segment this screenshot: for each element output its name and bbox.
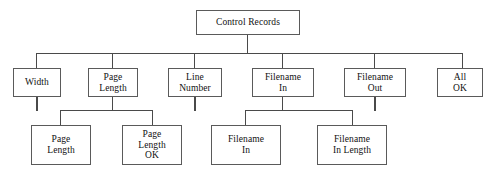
connector-drop-page-length-ok (152, 110, 153, 125)
node-label-line: OK (453, 83, 467, 94)
node-label-line: Line (186, 72, 204, 83)
node-label-line: Filename (265, 72, 301, 83)
node-label-line: Out (368, 83, 383, 94)
connector-drop-filename-out (374, 53, 375, 68)
connector-drop-page-length-child (60, 110, 61, 125)
node-control-records[interactable]: Control Records (196, 10, 300, 35)
node-label-line: Width (25, 77, 49, 88)
node-filename-in-length[interactable]: Filename In Length (317, 125, 387, 165)
node-width[interactable]: Width (13, 68, 61, 97)
connector-stub-width (36, 97, 38, 111)
node-label-line: Control Records (216, 17, 280, 28)
connector-drop-filename-in-child (245, 110, 246, 125)
node-label-line: Page (104, 72, 123, 83)
node-label-line: Length (47, 145, 75, 156)
connector-drop-line-number (194, 53, 195, 68)
node-line-number[interactable]: Line Number (168, 68, 222, 97)
connector-drop-filename-in-sub (282, 97, 283, 110)
connector-bus-page-length (60, 110, 152, 111)
node-label-line: Length (99, 83, 127, 94)
connector-drop-filename-in (282, 53, 283, 68)
connector-stub-filename-out (374, 97, 376, 111)
node-label-line: Filename (357, 72, 393, 83)
node-label-line: In Length (333, 145, 371, 156)
node-page-length-ok[interactable]: Page Length OK (122, 125, 182, 165)
node-label-line: Length (138, 140, 166, 151)
node-label-line: In (242, 145, 250, 156)
node-page-length-child[interactable]: Page Length (31, 125, 91, 165)
node-all-ok[interactable]: All OK (437, 68, 483, 97)
connector-drop-page-length (112, 53, 113, 68)
node-label-line: All (454, 72, 466, 83)
node-page-length[interactable]: Page Length (88, 68, 138, 97)
connector-root-drop (247, 35, 248, 53)
connector-bus-filename-in (245, 110, 352, 111)
node-label-line: Page (143, 129, 162, 140)
connector-stub-line-number (194, 97, 196, 111)
connector-drop-page-length-sub (112, 97, 113, 110)
connector-drop-filename-in-length (352, 110, 353, 125)
connector-main-bus (36, 53, 462, 54)
node-label-line: Filename (228, 134, 264, 145)
node-label-line: Page (52, 134, 71, 145)
node-label-line: Number (179, 83, 211, 94)
connector-drop-all-ok (462, 53, 463, 68)
node-label-line: OK (145, 150, 159, 161)
node-filename-in[interactable]: Filename In (252, 68, 314, 97)
node-filename-in-child[interactable]: Filename In (211, 125, 281, 165)
node-label-line: In (279, 83, 287, 94)
node-filename-out[interactable]: Filename Out (344, 68, 406, 97)
connector-drop-width (36, 53, 37, 68)
structure-chart-diagram: Control Records Width Page Length Line N… (0, 0, 493, 180)
node-label-line: Filename (334, 134, 370, 145)
